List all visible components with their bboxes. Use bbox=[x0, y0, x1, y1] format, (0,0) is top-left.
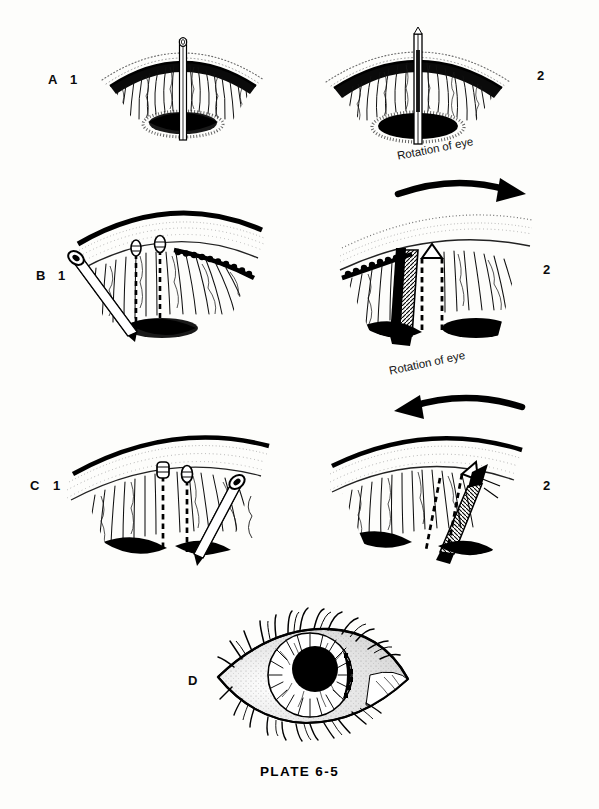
panel-a2-number: 2 bbox=[537, 68, 544, 83]
needle-track-dashed bbox=[163, 476, 187, 552]
panel-b2-number: 2 bbox=[543, 262, 550, 277]
figure-b2 bbox=[326, 186, 541, 351]
needle-track-dashed bbox=[422, 258, 442, 334]
figure-b1 bbox=[50, 186, 270, 351]
figure-c2 bbox=[322, 400, 540, 568]
instrument-needle-vertical bbox=[414, 27, 422, 144]
figure-c1 bbox=[55, 400, 280, 568]
anatomical-plate: A 1 bbox=[0, 0, 599, 809]
plate-caption: PLATE 6-5 bbox=[0, 764, 599, 779]
figure-a1 bbox=[88, 24, 278, 144]
panel-c2-number: 2 bbox=[543, 478, 550, 493]
rotation-label-c: Rotation of eye bbox=[388, 349, 466, 377]
row-label-a: A bbox=[48, 72, 58, 87]
row-label-d: D bbox=[188, 673, 198, 688]
panel-a1-number: 1 bbox=[70, 72, 77, 87]
instrument-cannula-oblique bbox=[66, 248, 137, 342]
figure-a2 bbox=[318, 20, 518, 148]
figure-d-eye bbox=[210, 605, 420, 745]
row-label-c: C bbox=[30, 478, 40, 493]
row-label-b: B bbox=[36, 268, 46, 283]
instrument-needle-vertical bbox=[179, 38, 186, 140]
